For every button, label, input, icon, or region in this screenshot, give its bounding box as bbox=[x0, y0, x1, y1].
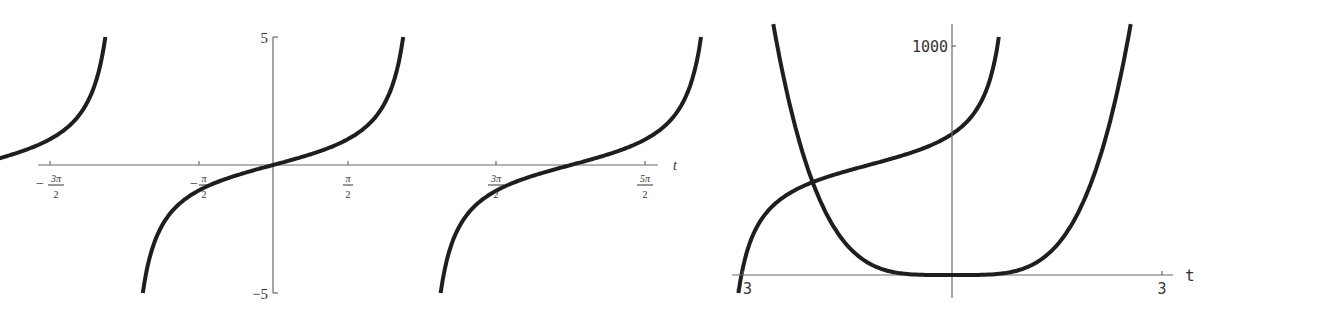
left-x-tick-label-neg-3pi-2: − 3π 2 bbox=[36, 173, 64, 200]
right-y-tick-label: 1000 bbox=[912, 38, 948, 56]
svg-text:3π: 3π bbox=[50, 173, 62, 184]
svg-text:−: − bbox=[190, 176, 198, 191]
figure: 5 −5 − 3π 2 − π 2 π 2 bbox=[0, 0, 1326, 328]
svg-text:3π: 3π bbox=[490, 173, 502, 184]
left-plot: 5 −5 − 3π 2 − π 2 π 2 bbox=[0, 30, 999, 302]
right-x-tick-label-left: -3 bbox=[734, 280, 752, 298]
left-x-tick-label-pi-2: π 2 bbox=[343, 173, 353, 200]
left-y-tick-label-bottom: −5 bbox=[252, 286, 268, 302]
svg-text:2: 2 bbox=[643, 189, 648, 200]
left-y-tick-label-top: 5 bbox=[261, 30, 269, 46]
left-x-axis-label: t bbox=[673, 158, 678, 173]
svg-text:2: 2 bbox=[346, 189, 351, 200]
right-plot: 1000 -3 3 t bbox=[732, 24, 1195, 298]
right-x-tick-label-right: 3 bbox=[1157, 280, 1166, 298]
svg-text:π: π bbox=[201, 173, 207, 184]
svg-text:π: π bbox=[345, 173, 351, 184]
tangent-branch bbox=[738, 37, 998, 293]
svg-text:−: − bbox=[36, 176, 44, 191]
svg-text:2: 2 bbox=[54, 189, 59, 200]
left-x-tick-label-5pi-2: 5π 2 bbox=[637, 173, 653, 200]
svg-text:5π: 5π bbox=[640, 173, 651, 184]
right-x-axis-label: t bbox=[1185, 266, 1195, 285]
